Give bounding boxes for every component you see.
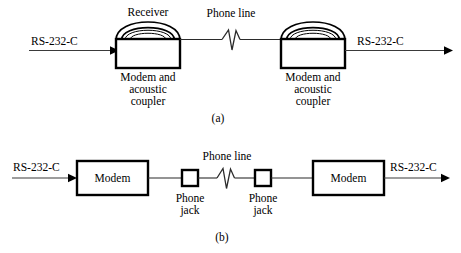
right-coupler-label-line3: coupler (296, 95, 331, 108)
right-rs232-arrow-b (384, 174, 450, 182)
left-coupler-label-line1: Modem and (120, 71, 176, 83)
right-rs232-label-a: RS-232-C (357, 35, 404, 47)
right-rs232-label-b: RS-232-C (390, 161, 437, 173)
phone-line-label-a: Phone line (207, 7, 256, 19)
modem-connection-diagram: RS-232-C Receiver Modem and acoustic cou… (0, 0, 461, 253)
left-modem-label: Modem (95, 172, 131, 184)
left-phone-jack (182, 170, 198, 186)
receiver-label: Receiver (128, 6, 169, 18)
right-coupler-label-line2: acoustic (294, 83, 332, 95)
phone-line-label-b: Phone line (203, 150, 252, 162)
left-coupler-label-line2: acoustic (129, 83, 167, 95)
phone-line-a (180, 30, 281, 50)
left-phone-jack-label-line2: jack (179, 204, 199, 217)
left-coupler-label-line3: coupler (131, 95, 166, 108)
left-rs232-label-a: RS-232-C (31, 35, 78, 47)
left-rs232-arrowhead-b (68, 174, 77, 182)
right-phone-jack (255, 170, 271, 186)
right-acoustic-coupler (281, 22, 345, 68)
left-acoustic-coupler (116, 22, 180, 68)
left-rs232-label-b: RS-232-C (13, 161, 60, 173)
right-coupler-label-line1: Modem and (285, 71, 341, 83)
panel-b: RS-232-C Modem Phone jack Phone line Pho… (12, 150, 450, 244)
right-rs232-arrowhead-b (441, 174, 450, 182)
right-phone-jack-label-line1: Phone (249, 192, 278, 204)
phone-line-zigzag-b (217, 169, 235, 189)
right-rs232-arrowhead-a (444, 46, 453, 54)
caption-a: (a) (212, 112, 225, 125)
phone-line-b (198, 169, 255, 189)
left-rs232-arrow-a (29, 46, 119, 54)
right-phone-jack-label-line2: jack (252, 204, 272, 217)
panel-a: RS-232-C Receiver Modem and acoustic cou… (29, 6, 453, 125)
left-rs232-arrow-b (12, 174, 77, 182)
left-coupler-body (116, 39, 180, 68)
right-modem-label: Modem (331, 172, 367, 184)
right-rs232-arrow-a (345, 46, 453, 54)
left-phone-jack-label-line1: Phone (176, 192, 205, 204)
caption-b: (b) (215, 231, 229, 244)
right-coupler-body (281, 39, 345, 68)
phone-line-zigzag-a (222, 30, 240, 50)
